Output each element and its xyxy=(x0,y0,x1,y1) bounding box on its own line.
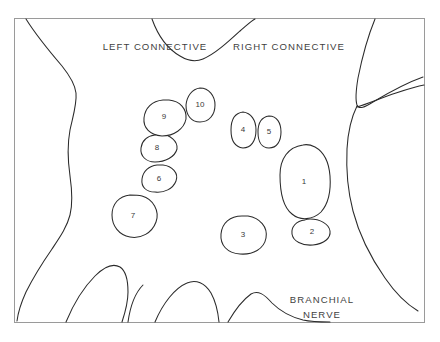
nerve-bundle-2[interactable]: 2 xyxy=(292,219,330,245)
nerve-bundle-label-9: 9 xyxy=(162,112,167,121)
region-label-left-connective: LEFT CONNECTIVE xyxy=(103,41,208,52)
nerve-bundle-1[interactable]: 1 xyxy=(280,145,330,219)
region-label-branchial-nerve-line1: BRANCHIAL xyxy=(290,294,354,305)
nerve-bundle-label-7: 7 xyxy=(131,211,136,220)
nerve-bundle-5[interactable]: 5 xyxy=(258,116,281,148)
nerve-bundle-label-6: 6 xyxy=(157,174,162,183)
region-label-branchial-nerve-line2: NERVE xyxy=(303,309,341,320)
anatomical-diagram-figure: 12345678910 LEFT CONNECTIVERIGHT CONNECT… xyxy=(0,0,440,342)
nerve-bundle-label-8: 8 xyxy=(155,143,160,152)
nerve-bundle-label-5: 5 xyxy=(267,127,272,136)
diagram-canvas: 12345678910 LEFT CONNECTIVERIGHT CONNECT… xyxy=(0,0,440,342)
nerve-bundle-6[interactable]: 6 xyxy=(142,165,177,192)
region-label-right-connective: RIGHT CONNECTIVE xyxy=(233,41,345,52)
nerve-bundle-label-1: 1 xyxy=(302,177,307,186)
nerve-bundle-3[interactable]: 3 xyxy=(221,216,266,254)
nerve-bundle-label-10: 10 xyxy=(196,100,205,109)
nerve-bundle-label-2: 2 xyxy=(310,227,315,236)
nerve-bundle-4[interactable]: 4 xyxy=(231,112,256,148)
nerve-bundle-label-3: 3 xyxy=(241,230,246,239)
nerve-bundle-10[interactable]: 10 xyxy=(186,88,215,122)
nerve-bundle-7[interactable]: 7 xyxy=(112,195,157,237)
nerve-bundle-label-4: 4 xyxy=(241,125,246,134)
figure-border-frame xyxy=(15,19,425,323)
